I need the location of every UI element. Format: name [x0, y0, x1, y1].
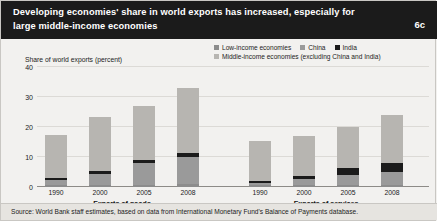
- bar-segment-low-income: [337, 185, 359, 187]
- bar-segment-india: [381, 163, 403, 172]
- legend-swatch-middle-income: [214, 54, 219, 59]
- figure-header: Developing economies' share in world exp…: [1, 1, 437, 39]
- bar-segment-middle-income: [249, 141, 271, 182]
- bar-segment-china: [177, 157, 199, 184]
- bar-segment-middle-income: [89, 117, 111, 172]
- bar-segment-china: [337, 175, 359, 185]
- figure-number: 6c: [414, 19, 425, 30]
- x-axis-tick-1990: 1990: [240, 189, 280, 196]
- bar-exports-of-goods-2000: [89, 117, 111, 187]
- bar-segment-middle-income: [293, 136, 315, 176]
- legend-swatch-low-income: [214, 45, 219, 50]
- legend-label-middle-income: Middle-income economies (excluding China…: [222, 52, 381, 61]
- bar-exports-of-services-2008: [381, 115, 403, 187]
- legend-item-china: China: [300, 43, 325, 52]
- bar-segment-india: [337, 168, 359, 175]
- bar-segment-china: [133, 163, 155, 185]
- bar-exports-of-goods-2005: [133, 106, 155, 187]
- page-title: Developing economies' share in world exp…: [13, 6, 373, 33]
- legend-item-low-income: Low-income economies: [214, 43, 291, 52]
- bar-segment-low-income: [381, 185, 403, 187]
- x-axis-tick-2005: 2005: [124, 189, 164, 196]
- bar-segment-middle-income: [177, 88, 199, 153]
- x-axis-tick-1990: 1990: [36, 189, 76, 196]
- bar-segment-low-income: [89, 185, 111, 187]
- x-axis-tick-2008: 2008: [168, 189, 208, 196]
- bar-exports-of-services-2000: [293, 136, 315, 187]
- y-axis-tick-30: 30: [13, 93, 33, 100]
- bar-segment-middle-income: [45, 135, 67, 179]
- bar-segment-low-income: [133, 185, 155, 187]
- bar-segment-low-income: [177, 184, 199, 187]
- legend-label-china: China: [308, 43, 325, 52]
- gridline-30: 30: [37, 96, 429, 97]
- legend-row-top: Low-income economies China India: [214, 43, 426, 52]
- x-axis-tick-2000: 2000: [80, 189, 120, 196]
- bar-segment-middle-income: [337, 127, 359, 168]
- x-axis-tick-2008: 2008: [372, 189, 412, 196]
- bar-segment-china: [381, 172, 403, 185]
- gridline-40: 40: [37, 66, 429, 67]
- bar-segment-middle-income: [381, 115, 403, 163]
- y-axis-label: Share of world exports (percent): [25, 56, 122, 63]
- figure-footer: Source: World Bank staff estimates, base…: [1, 203, 437, 220]
- y-axis-tick-40: 40: [13, 63, 33, 70]
- bar-segment-low-income: [293, 185, 315, 187]
- legend-label-india: India: [343, 43, 357, 52]
- bar-segment-low-income: [45, 185, 67, 187]
- legend-label-low-income: Low-income economies: [222, 43, 291, 52]
- legend-swatch-india: [335, 45, 340, 50]
- y-axis-tick-20: 20: [13, 123, 33, 130]
- bar-segment-low-income: [249, 185, 271, 187]
- legend-item-india: India: [335, 43, 357, 52]
- x-axis-tick-2000: 2000: [284, 189, 324, 196]
- plot-area: 0102030401990200020052008Exports of good…: [37, 67, 429, 187]
- bar-exports-of-services-2005: [337, 127, 359, 187]
- bar-segment-middle-income: [133, 106, 155, 160]
- legend-item-middle-income: Middle-income economies (excluding China…: [214, 52, 381, 61]
- y-axis-tick-0: 0: [13, 183, 33, 190]
- legend-row-bottom: Middle-income economies (excluding China…: [214, 52, 426, 61]
- bar-segment-china: [89, 174, 111, 186]
- bar-exports-of-services-1990: [249, 141, 271, 187]
- bar-exports-of-goods-1990: [45, 135, 67, 187]
- x-axis-tick-2005: 2005: [328, 189, 368, 196]
- source-note: Source: World Bank staff estimates, base…: [11, 208, 358, 215]
- y-axis-tick-10: 10: [13, 153, 33, 160]
- bar-exports-of-goods-2008: [177, 88, 199, 187]
- chart-legend: Low-income economies China India Middle-…: [214, 43, 426, 61]
- legend-swatch-china: [300, 45, 305, 50]
